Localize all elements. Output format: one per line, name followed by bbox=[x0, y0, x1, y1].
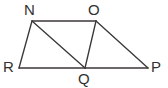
vertex-label-R: R bbox=[3, 58, 14, 75]
edge-NR bbox=[19, 21, 32, 68]
vertex-label-N: N bbox=[24, 1, 35, 18]
geometry-figure: N O R Q P bbox=[0, 0, 168, 88]
vertex-label-Q: Q bbox=[78, 70, 90, 87]
edge-OP bbox=[96, 21, 148, 68]
vertex-label-P: P bbox=[151, 58, 161, 75]
edge-OQ bbox=[85, 21, 96, 68]
figure-edges bbox=[19, 21, 148, 68]
edge-NQ bbox=[32, 21, 85, 68]
vertex-label-O: O bbox=[88, 1, 100, 18]
figure-canvas: N O R Q P bbox=[0, 0, 168, 88]
figure-vertex-labels: N O R Q P bbox=[3, 1, 161, 87]
